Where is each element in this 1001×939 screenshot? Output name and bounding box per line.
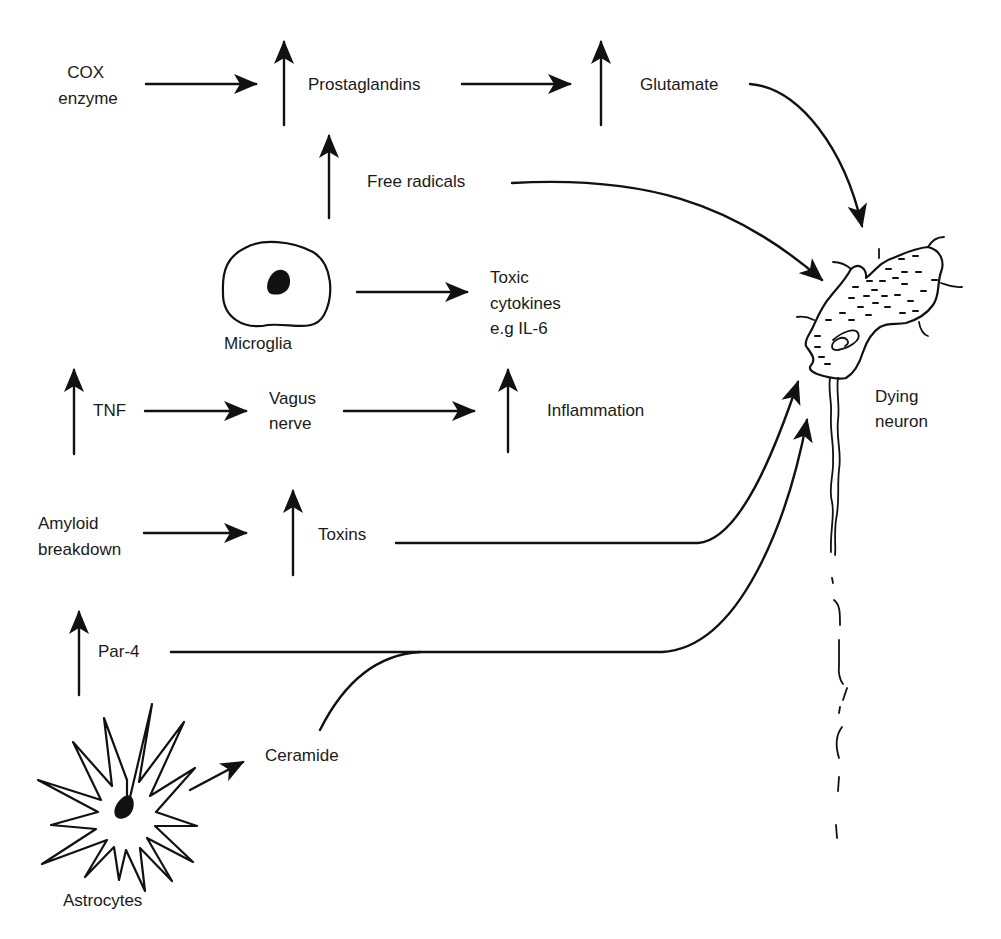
node-vagus-nerve: Vagus nerve	[269, 389, 321, 433]
astrocyte-cell-icon	[38, 704, 197, 891]
node-ceramide: Ceramide	[265, 746, 339, 765]
node-free-radicals: Free radicals	[367, 172, 465, 191]
node-dying-neuron: Dying neuron	[875, 387, 928, 431]
arrow-par4-to-neuron	[171, 420, 807, 652]
neuroinflammation-diagram: COX enzyme Prostaglandins Glutamate Free…	[0, 0, 1001, 939]
arrow-free-radicals-to-neuron	[512, 182, 822, 280]
node-inflammation: Inflammation	[547, 401, 644, 420]
node-cox-enzyme: COX enzyme	[58, 63, 118, 108]
node-prostaglandins: Prostaglandins	[308, 75, 420, 94]
node-tnf: TNF	[93, 401, 126, 420]
line-ceramide-merge	[320, 652, 420, 730]
node-toxic-cytokines: Toxic cytokines e.g IL-6	[490, 268, 566, 338]
node-par4: Par-4	[98, 642, 140, 661]
microglia-cell-icon	[223, 242, 330, 326]
dying-neuron-icon	[797, 237, 962, 838]
arrow-astrocytes-to-ceramide	[190, 762, 243, 790]
node-astrocytes: Astrocytes	[63, 891, 142, 910]
node-glutamate: Glutamate	[640, 75, 718, 94]
node-amyloid-breakdown: Amyloid breakdown	[38, 514, 121, 559]
node-microglia: Microglia	[224, 334, 293, 353]
arrow-glutamate-to-neuron	[750, 84, 862, 226]
node-toxins: Toxins	[318, 525, 366, 544]
